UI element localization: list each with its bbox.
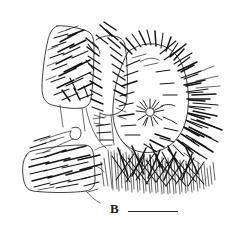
panel-label: B — [110, 202, 119, 216]
figure-panel: B — [0, 0, 234, 234]
setae-group-distal-interior — [119, 54, 178, 152]
setae-group-upper-podomere — [46, 26, 95, 101]
sensory-rosette — [136, 99, 177, 126]
distal-podomere — [113, 44, 189, 159]
line-drawing-illustration — [0, 0, 234, 234]
setal-brush-ventral — [101, 144, 215, 194]
setae-group-lower-podomere — [29, 136, 102, 192]
setae-group-median-podomere — [86, 22, 126, 125]
scale-bar — [128, 211, 178, 212]
median-podomere — [96, 36, 127, 145]
